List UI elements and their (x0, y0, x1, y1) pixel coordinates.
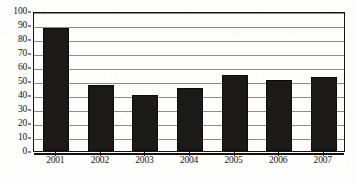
bar-2005 (222, 75, 248, 151)
x-axis-tick (55, 152, 56, 156)
y-axis-tick-label: 50 (18, 77, 27, 87)
y-axis-tick-label: 40 (18, 91, 27, 101)
bar-2007 (311, 77, 337, 151)
y-axis-tick (28, 68, 31, 69)
bar-2002 (88, 85, 114, 151)
x-axis-tick (278, 152, 279, 156)
x-axis-tick (234, 152, 235, 156)
x-axis-tick (144, 152, 145, 156)
y-axis-tick-label: 0 (22, 147, 27, 157)
plot-area (33, 12, 345, 152)
y-axis-tick (28, 138, 31, 139)
x-axis-tick-label: 2003 (135, 156, 153, 166)
y-axis: 0102030405060708090100 (0, 12, 31, 152)
y-axis-tick (28, 82, 31, 83)
y-axis-tick (28, 96, 31, 97)
y-axis-tick-label: 80 (18, 35, 27, 45)
y-axis-tick-label: 10 (18, 133, 27, 143)
y-axis-tick (28, 12, 31, 13)
bar-2001 (43, 28, 69, 151)
bar-series (34, 13, 344, 151)
bar-chart: 0102030405060708090100 20012002200320042… (0, 0, 357, 184)
x-axis: 2001200220032004200520062007 (33, 156, 345, 176)
x-axis-tick-label: 2007 (314, 156, 332, 166)
x-axis-tick-label: 2006 (269, 156, 287, 166)
bar-2006 (266, 80, 292, 151)
y-axis-tick (28, 110, 31, 111)
x-axis-tick-label: 2002 (91, 156, 109, 166)
y-axis-tick-label: 30 (18, 105, 27, 115)
y-axis-tick (28, 152, 31, 153)
x-axis-tick-label: 2001 (46, 156, 64, 166)
y-axis-tick-label: 90 (18, 21, 27, 31)
y-axis-tick (28, 26, 31, 27)
x-axis-tick-label: 2005 (224, 156, 242, 166)
x-axis-tick (189, 152, 190, 156)
y-axis-tick (28, 54, 31, 55)
y-axis-tick-label: 20 (18, 119, 27, 129)
y-axis-tick (28, 124, 31, 125)
bar-2003 (132, 95, 158, 151)
y-axis-tick-label: 100 (13, 7, 27, 17)
x-axis-tick (323, 152, 324, 156)
x-axis-tick (100, 152, 101, 156)
x-axis-tick-label: 2004 (180, 156, 198, 166)
bar-2004 (177, 88, 203, 151)
y-axis-tick-label: 60 (18, 63, 27, 73)
y-axis-tick (28, 40, 31, 41)
y-axis-tick-label: 70 (18, 49, 27, 59)
